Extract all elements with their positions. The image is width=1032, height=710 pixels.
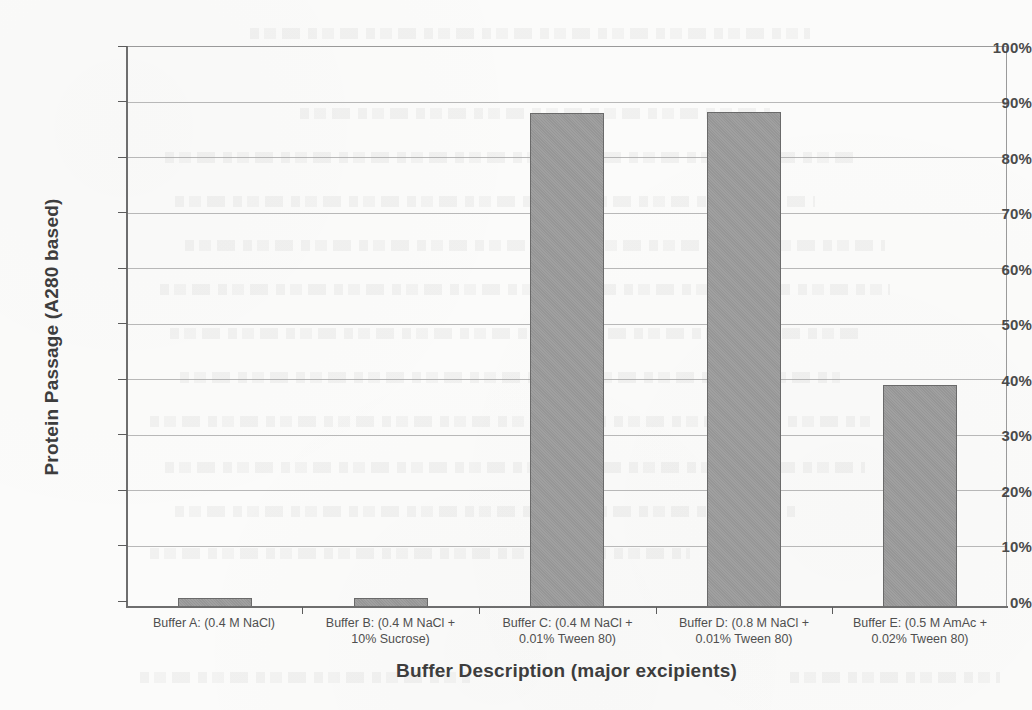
y-tick-mark [118, 545, 127, 546]
y-tick-label-70: 70% [922, 205, 1032, 222]
y-tick-label-50: 50% [922, 316, 1032, 333]
y-tick-label-60: 60% [922, 261, 1032, 278]
x-tick-label-line-2: 0.02% Tween 80) [832, 631, 1008, 647]
y-axis-title: Protein Passage (A280 based) [41, 102, 63, 572]
bar-buffer-d[interactable] [707, 112, 781, 608]
x-tick-label-line-1: Buffer B: (0.4 M NaCl + [302, 615, 479, 631]
x-tick-label-buffer-b: Buffer B: (0.4 M NaCl + 10% Sucrose) [302, 615, 479, 647]
x-tick-label-line-2: 0.01% Tween 80) [479, 631, 656, 647]
y-tick-label-0: 0% [922, 594, 1032, 611]
y-tick-label-30: 30% [922, 427, 1032, 444]
y-tick-label-20: 20% [922, 483, 1032, 500]
x-tick-mark [479, 607, 480, 614]
y-tick-mark [118, 46, 127, 47]
y-axis-line [126, 46, 128, 608]
plot-area [126, 46, 1007, 607]
y-tick-label-90: 90% [922, 94, 1032, 111]
x-tick-label-buffer-c: Buffer C: (0.4 M NaCl + 0.01% Tween 80) [479, 615, 656, 647]
x-tick-label-line-1: Buffer A: (0.4 M NaCl) [126, 615, 302, 631]
x-tick-label-line-1: Buffer E: (0.5 M AmAc + [832, 615, 1008, 631]
y-tick-label-80: 80% [922, 150, 1032, 167]
y-tick-mark [118, 268, 127, 269]
x-tick-mark [302, 607, 303, 614]
x-axis-line [126, 606, 1008, 608]
x-tick-label-line-1: Buffer C: (0.4 M NaCl + [479, 615, 656, 631]
y-tick-mark [118, 101, 127, 102]
y-tick-mark [118, 157, 127, 158]
y-tick-label-100: 100% [922, 39, 1032, 56]
x-tick-label-buffer-e: Buffer E: (0.5 M AmAc + 0.02% Tween 80) [832, 615, 1008, 647]
x-tick-label-line-2: 0.01% Tween 80) [656, 631, 832, 647]
x-tick-label-line-2: 10% Sucrose) [302, 631, 479, 647]
y-tick-mark [118, 490, 127, 491]
x-tick-label-line-1: Buffer D: (0.8 M NaCl + [656, 615, 832, 631]
y-tick-mark [118, 434, 127, 435]
x-axis-title: Buffer Description (major excipients) [126, 660, 1007, 682]
y-tick-label-40: 40% [922, 372, 1032, 389]
y-tick-mark [118, 323, 127, 324]
chart-figure: 100% 90% 80% 70% 60% 50% 40% 30% 20% 10%… [0, 0, 1032, 710]
bar-buffer-c[interactable] [530, 113, 604, 608]
y-tick-mark [118, 601, 127, 602]
x-tick-mark [832, 607, 833, 614]
y-tick-mark [118, 379, 127, 380]
gridline-90 [127, 102, 1006, 103]
x-tick-mark [656, 607, 657, 614]
x-tick-label-buffer-d: Buffer D: (0.8 M NaCl + 0.01% Tween 80) [656, 615, 832, 647]
y-tick-mark [118, 212, 127, 213]
y-tick-label-10: 10% [922, 538, 1032, 555]
x-tick-label-buffer-a: Buffer A: (0.4 M NaCl) [126, 615, 302, 631]
